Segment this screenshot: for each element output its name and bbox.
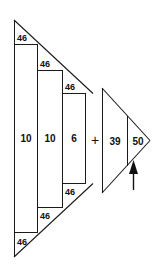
up-arrow-icon bbox=[129, 160, 138, 190]
bar-3-value: 6 bbox=[71, 133, 77, 144]
large-triangle-group: 10 10 6 46 46 46 46 46 46 bbox=[14, 20, 93, 257]
bar-3-top-label: 46 bbox=[65, 82, 75, 92]
bar-5-value: 50 bbox=[132, 136, 144, 147]
bar-1-top-label: 46 bbox=[17, 33, 27, 43]
small-triangle-group: 39 50 bbox=[102, 88, 150, 193]
bar-2-top-label: 46 bbox=[40, 59, 50, 69]
diagram-root: 10 10 6 46 46 46 46 46 46 + 39 50 bbox=[0, 0, 158, 269]
bar-4-value: 39 bbox=[109, 136, 121, 147]
small-triangle-lower-edge bbox=[102, 141, 150, 194]
bar-2-bottom-label: 46 bbox=[40, 211, 50, 221]
bar-1-value: 10 bbox=[20, 133, 32, 144]
figure-svg: 10 10 6 46 46 46 46 46 46 + 39 50 bbox=[0, 0, 158, 269]
bar-2-value: 10 bbox=[44, 133, 56, 144]
large-triangle-upper-edge bbox=[14, 20, 93, 94]
bar-3-bottom-label: 46 bbox=[65, 187, 75, 197]
plus-symbol: + bbox=[91, 132, 99, 148]
bar-1-bottom-label: 46 bbox=[17, 237, 27, 247]
small-triangle-upper-edge bbox=[102, 88, 150, 141]
